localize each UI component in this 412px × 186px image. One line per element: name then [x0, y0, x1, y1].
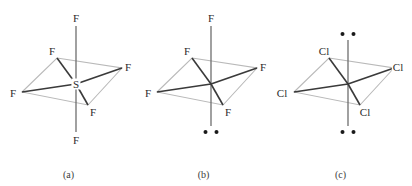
equatorial-plane-outline: [157, 58, 257, 105]
atom-label-center: S: [71, 79, 80, 90]
lone-pair-bottom: [204, 122, 219, 140]
lone-pair-dot: [352, 32, 356, 36]
atom-label-equatorial-front-left: F: [9, 88, 17, 99]
atom-label-equatorial-front-left: F: [144, 88, 152, 99]
lone-pair-dot: [204, 130, 208, 134]
panel-caption-b: (b): [135, 169, 272, 180]
panel-caption-a: (a): [0, 169, 137, 180]
bond-center-front-left: [22, 84, 76, 92]
atom-label-equatorial-back-left: F: [183, 46, 191, 57]
bond-center-back-left: [192, 58, 211, 84]
atom-label-equatorial-front-left: Cl: [276, 88, 288, 99]
equatorial-plane-outline: [294, 58, 394, 105]
panel-caption-c: (c): [272, 169, 409, 180]
atom-label-equatorial-back-right: F: [259, 62, 267, 73]
bond-center-front-left: [157, 84, 211, 92]
atom-label-equatorial-front-right: F: [224, 107, 232, 118]
lone-pair-bottom: [341, 122, 356, 140]
figure-container: F F F F F F S (a) F F F F F (b): [0, 0, 412, 186]
lone-pair-dot: [341, 32, 345, 36]
bond-center-back-left: [329, 58, 348, 84]
structure-panel-b: F F F F F (b): [135, 0, 272, 186]
lone-pair-dot: [215, 130, 219, 134]
atom-label-equatorial-back-right: F: [124, 62, 132, 73]
atom-label-axial-bottom: F: [72, 135, 80, 146]
bond-center-front-right: [211, 84, 223, 105]
atom-label-equatorial-back-left: F: [48, 46, 56, 57]
atom-label-equatorial-back-right: Cl: [392, 62, 404, 73]
atom-label-axial-top: F: [207, 13, 215, 24]
atom-label-equatorial-front-right: F: [89, 107, 97, 118]
atom-label-equatorial-front-right: Cl: [359, 107, 371, 118]
atom-label-axial-top: F: [72, 13, 80, 24]
bond-center-front-right: [348, 84, 360, 105]
bond-diagram-a: [0, 0, 137, 160]
lone-pair-top: [341, 24, 356, 42]
lone-pair-dot: [352, 130, 356, 134]
lone-pair-dot: [341, 130, 345, 134]
structure-panel-a: F F F F F F S (a): [0, 0, 137, 186]
atom-label-equatorial-back-left: Cl: [318, 46, 330, 57]
structure-panel-c: Cl Cl Cl Cl (c): [272, 0, 409, 186]
bond-center-front-left: [294, 84, 348, 92]
